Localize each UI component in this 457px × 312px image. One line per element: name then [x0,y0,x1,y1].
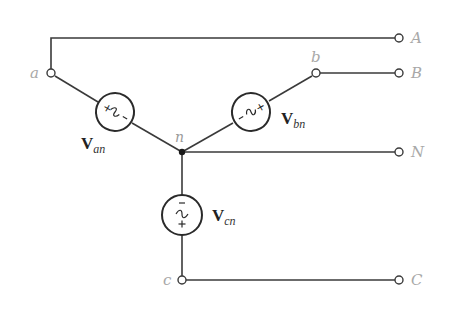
node-label-c: c [163,271,172,289]
terminal-a [47,69,55,77]
node-label-a: a [30,64,39,82]
terminal-b [312,69,320,77]
terminal-N [395,148,403,156]
wires [51,38,395,280]
node-label-b: b [311,48,321,66]
wire-n-to-vbn [182,123,233,152]
terminal-label-B: B [410,64,422,82]
wire-a-to-A [51,38,395,69]
wire-vbn-to-b [269,76,312,101]
source-vcn [162,195,202,235]
neutral-node-dot [179,149,185,155]
source-van: + [89,86,141,138]
terminal-A [395,34,403,42]
terminal-label-C: C [411,271,423,289]
wire-a-to-van [55,76,98,102]
source-label-vcn: Vcn [212,206,236,228]
terminal-c [178,276,186,284]
terminal-C [395,276,403,284]
source-vbn: + [225,86,277,138]
source-label-van: Van [81,134,105,156]
terminal-label-N: N [410,143,425,161]
terminal-B [395,69,403,77]
source-label-vbn: Vbn [281,109,305,131]
wye-circuit-diagram: + + a b c n A B N C Van Vbn Vcn [0,0,457,312]
terminal-label-A: A [409,29,422,47]
node-label-n: n [175,129,184,145]
